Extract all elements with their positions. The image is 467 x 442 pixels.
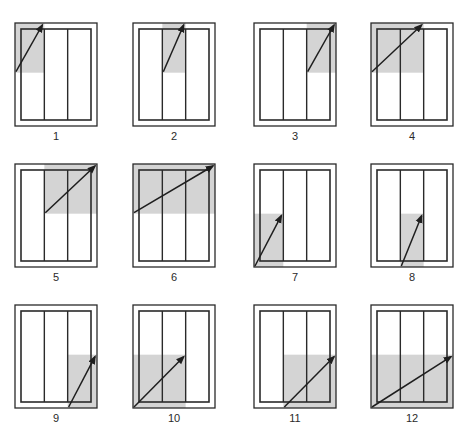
panel-label: 6 [171,271,177,283]
panel-7: 7 [254,164,336,283]
panel-12: 12 [371,305,453,424]
panel-diagram: 123456789101112 [0,0,467,442]
panel-10: 10 [133,305,215,424]
panel-label: 10 [168,412,180,424]
panel-1: 1 [15,23,97,142]
panel-6: 6 [133,164,215,283]
panel-label: 11 [289,412,300,424]
panel-label: 12 [406,412,418,424]
panel-3: 3 [254,23,336,142]
panel-2: 2 [133,23,215,142]
panel-label: 5 [53,271,59,283]
panel-8: 8 [371,164,453,283]
panel-label: 1 [53,130,59,142]
panel-label: 2 [171,130,177,142]
panel-11: 11 [254,305,336,424]
panel-4: 4 [371,23,453,142]
panel-label: 4 [409,130,415,142]
panel-label: 9 [53,412,59,424]
panel-label: 7 [292,271,298,283]
panels-layer: 123456789101112 [15,23,453,424]
panel-label: 3 [292,130,298,142]
panel-9: 9 [15,305,97,424]
panel-5: 5 [15,164,97,283]
panel-label: 8 [409,271,415,283]
